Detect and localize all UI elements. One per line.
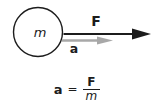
- equation-numerator: F: [84, 76, 98, 89]
- equation-equals-sign: =: [68, 82, 78, 96]
- equation-fraction: F m: [83, 76, 101, 102]
- equation-denominator: m: [83, 89, 101, 103]
- acceleration-arrowhead-icon: [97, 36, 113, 44]
- free-body-diagram: m F a: [0, 0, 154, 72]
- force-arrowhead-icon: [132, 29, 151, 40]
- equation-lhs: a: [54, 82, 63, 97]
- mass-label: m: [34, 25, 47, 40]
- equation: a = F m: [0, 76, 154, 102]
- acceleration-label: a: [70, 41, 78, 56]
- force-label: F: [91, 13, 101, 29]
- newtons-second-law-figure: m F a a = F m: [0, 0, 154, 111]
